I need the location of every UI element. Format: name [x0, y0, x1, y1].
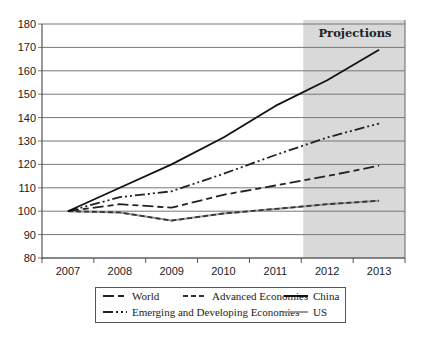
- legend-item-world: World: [102, 290, 159, 302]
- svg-text:2007: 2007: [56, 265, 80, 277]
- svg-text:180: 180: [18, 18, 36, 30]
- legend-label-us: US: [313, 306, 327, 318]
- legend-item-emerging-developing: Emerging and Developing Economies: [102, 306, 300, 318]
- legend-label-world: World: [132, 290, 159, 302]
- projections-shaded-region: [303, 20, 405, 258]
- advanced-economies-line-swatch-icon: [182, 293, 208, 299]
- projections-label: Projections: [318, 26, 391, 40]
- china-line-swatch-icon: [283, 293, 309, 299]
- svg-text:2008: 2008: [108, 265, 132, 277]
- svg-text:150: 150: [18, 88, 36, 100]
- svg-text:170: 170: [18, 41, 36, 53]
- svg-text:100: 100: [18, 205, 36, 217]
- svg-text:140: 140: [18, 112, 36, 124]
- emerging-line-swatch-icon: [102, 309, 128, 315]
- svg-text:2012: 2012: [315, 265, 339, 277]
- svg-text:2013: 2013: [367, 265, 391, 277]
- svg-text:2010: 2010: [211, 265, 235, 277]
- legend-item-us: US: [283, 306, 327, 318]
- svg-text:90: 90: [24, 229, 36, 241]
- world-line-swatch-icon: [102, 293, 128, 299]
- svg-text:80: 80: [24, 252, 36, 264]
- svg-text:120: 120: [18, 158, 36, 170]
- svg-text:2011: 2011: [264, 265, 288, 277]
- legend-label-china: China: [313, 290, 339, 302]
- y-axis-tick-labels: 8090100110120130140150160170180: [18, 18, 36, 264]
- svg-text:130: 130: [18, 135, 36, 147]
- us-line-swatch-icon: [283, 309, 309, 315]
- svg-text:110: 110: [18, 182, 36, 194]
- legend-label-emerging-developing: Emerging and Developing Economies: [132, 306, 300, 318]
- x-axis-tick-labels: 2007200820092010201120122013: [56, 265, 392, 277]
- legend-item-china: China: [283, 290, 339, 302]
- legend: World Advanced Economies China Emerging …: [95, 287, 346, 323]
- svg-text:160: 160: [18, 65, 36, 77]
- svg-text:2009: 2009: [159, 265, 183, 277]
